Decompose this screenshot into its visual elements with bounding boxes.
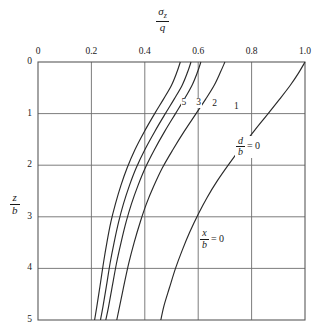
curve-label-3: 3 — [195, 98, 202, 108]
y-tick-label: 3 — [16, 211, 32, 221]
annotation-denominator: b — [236, 147, 245, 158]
annotation-x-over-b: xb= 0 — [199, 228, 225, 250]
annotation-equals: = 0 — [245, 140, 260, 151]
x-tick-label: 0.8 — [237, 46, 267, 56]
y-tick-label: 4 — [16, 262, 32, 272]
y-tick-label: 0 — [16, 56, 32, 66]
annotation-d-over-b: db= 0 — [235, 136, 261, 158]
x-tick-label: 0.6 — [183, 46, 213, 56]
x-tick-label: 1.0 — [290, 46, 320, 56]
curve-3 — [100, 62, 191, 320]
y-tick-label: 2 — [16, 159, 32, 169]
annotation-denominator: b — [200, 240, 209, 251]
stress-distribution-chart: σz q z b 00.20.40.60.81.0 012345 5321 db… — [0, 0, 325, 334]
x-tick-label: 0.2 — [76, 46, 106, 56]
y-tick-label: 1 — [16, 108, 32, 118]
y-tick-label: 5 — [16, 314, 32, 324]
annotation-fraction: xb — [200, 228, 209, 250]
x-tick-label: 0 — [23, 46, 53, 56]
annotation-fraction: db — [236, 136, 245, 158]
curve-label-5: 5 — [181, 98, 188, 108]
annotation-equals: = 0 — [209, 233, 224, 244]
x-tick-label: 0.4 — [130, 46, 160, 56]
curve-label-2: 2 — [211, 99, 218, 109]
curve-label-1: 1 — [233, 102, 240, 112]
